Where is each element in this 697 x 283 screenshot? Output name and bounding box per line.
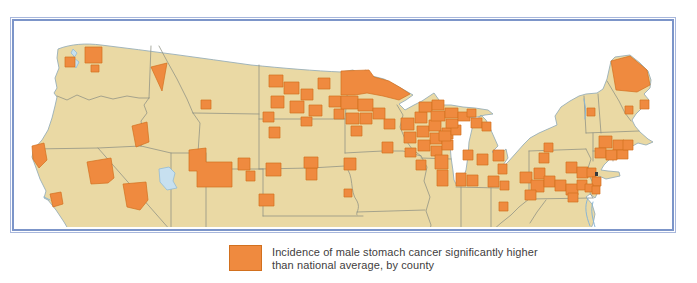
map-legend: Incidence of male stomach cancer signifi… (229, 245, 538, 271)
legend-swatch (229, 245, 262, 271)
legend-label-line1: Incidence of male stomach cancer signifi… (272, 246, 538, 259)
map-frame (10, 17, 676, 233)
us-map (14, 21, 672, 227)
legend-label-line2: than national average, by county (272, 259, 538, 272)
map-frame-inner (12, 19, 674, 231)
legend-label: Incidence of male stomach cancer signifi… (272, 245, 538, 271)
stomach-cancer-map-figure: Incidence of male stomach cancer signifi… (0, 0, 697, 283)
